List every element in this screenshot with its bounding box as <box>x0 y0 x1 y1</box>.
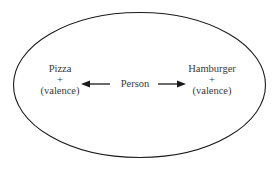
hamburger-label: Hamburger <box>188 63 236 74</box>
pizza-node: Pizza + (valence) <box>30 63 90 96</box>
pizza-label: Pizza <box>49 63 72 74</box>
pizza-sign: + <box>57 74 63 85</box>
hamburger-sign: + <box>209 74 215 85</box>
hamburger-node: Hamburger + (valence) <box>180 63 244 96</box>
diagram-canvas: Pizza + (valence) Person Hamburger + (va… <box>0 0 279 170</box>
pizza-valence: (valence) <box>40 85 79 96</box>
person-label: Person <box>114 78 156 89</box>
hamburger-valence: (valence) <box>192 85 231 96</box>
